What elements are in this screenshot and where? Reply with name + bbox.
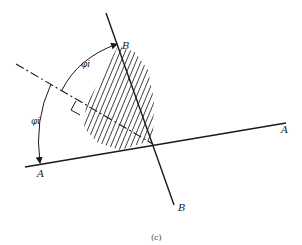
label-b-bottom: B: [177, 202, 185, 213]
label-a-left: A: [36, 168, 44, 179]
label-a-right: A: [280, 124, 288, 135]
dashed-normal-line: [16, 64, 153, 144]
right-angle-marker: [71, 101, 80, 115]
diagram-canvas: B B A A φi φi (c): [0, 0, 302, 245]
label-phi-lower: φi: [31, 116, 40, 126]
label-phi-upper: φi: [81, 59, 90, 69]
angle-arc-lower: [38, 84, 51, 163]
figure-caption: (c): [151, 233, 162, 242]
line-a: [25, 123, 286, 167]
label-b-top: B: [121, 40, 129, 51]
